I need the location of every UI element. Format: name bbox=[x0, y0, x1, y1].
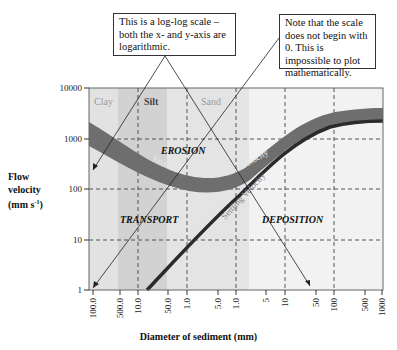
zero-scale-callout: Note that the scale does not begin with … bbox=[279, 14, 376, 69]
y-title-end: ) bbox=[39, 199, 42, 210]
x-tick-label: 1000 bbox=[377, 298, 387, 317]
y-tick-label: 1 bbox=[78, 285, 83, 295]
x-tick-label: 500.0 bbox=[115, 298, 125, 319]
y-tick-label: 100 bbox=[69, 184, 83, 194]
x-tick-label: 100.0 bbox=[88, 298, 98, 319]
x-tick-label: 10 bbox=[280, 298, 290, 308]
sand-label: Sand bbox=[201, 96, 221, 107]
y-title-line3: (mm s bbox=[8, 199, 34, 210]
x-tick-label: 1.0 bbox=[182, 298, 192, 310]
log-scale-callout: This is a log-log scale – both the x- an… bbox=[113, 13, 236, 56]
y-tick-labels: 10000 1000 100 10 1 bbox=[60, 83, 83, 295]
silt-label: Silt bbox=[144, 96, 159, 107]
y-tick-label: 1000 bbox=[64, 134, 83, 144]
y-title-line2: velocity bbox=[8, 183, 43, 196]
y-tick-label: 10 bbox=[73, 235, 83, 245]
transport-zone-label: TRANSPORT bbox=[120, 214, 179, 225]
erosion-zone-label: EROSION bbox=[160, 145, 206, 156]
clay-label: Clay bbox=[94, 96, 113, 107]
log-scale-note: This is a log-log scale – both the x- an… bbox=[119, 16, 226, 52]
x-tick-label: 10.0 bbox=[133, 298, 143, 314]
x-tick-label: 50 bbox=[311, 298, 321, 308]
x-tick-label: 1.0 bbox=[231, 298, 241, 310]
y-axis-title: Flow velocity (mm s-1) bbox=[8, 170, 43, 211]
x-ticks bbox=[93, 290, 382, 295]
y-ticks bbox=[84, 88, 89, 290]
x-tick-labels: 100.0 500.0 10.0 50.0 1.0 5.0 1.0 5 10 5… bbox=[88, 298, 387, 319]
zero-scale-note: Note that the scale does not begin with … bbox=[285, 17, 368, 78]
y-tick-label: 10000 bbox=[60, 83, 83, 93]
x-tick-label: 5 bbox=[261, 298, 271, 303]
x-tick-label: 100 bbox=[329, 298, 339, 312]
x-tick-label: 500 bbox=[360, 298, 370, 312]
y-title-line1: Flow bbox=[8, 170, 43, 183]
x-tick-label: 5.0 bbox=[213, 298, 223, 310]
x-axis-title: Diameter of sediment (mm) bbox=[0, 331, 397, 342]
x-tick-label: 50.0 bbox=[163, 298, 173, 314]
